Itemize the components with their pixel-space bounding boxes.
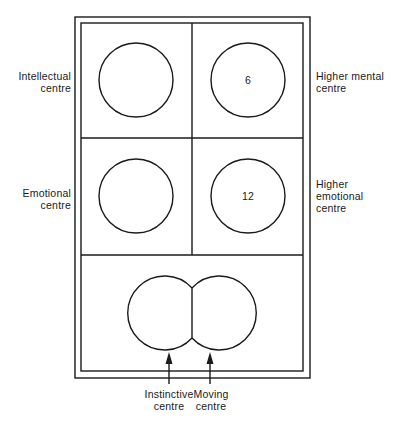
emotional-centre-circle [99, 159, 173, 233]
moving-arrow-icon [207, 352, 214, 364]
instinctive-centre-circle [128, 276, 192, 350]
intellectual-centre-label: Intellectual centre [0, 70, 71, 94]
moving-centre-label: Moving centre [181, 388, 241, 412]
instinctive-arrow-icon [166, 352, 173, 364]
emotional-centre-label: Emotional centre [0, 187, 71, 211]
higher-mental-centre-number: 6 [228, 74, 268, 86]
intellectual-centre-circle [99, 43, 173, 117]
higher-mental-centre-label: Higher mental centre [316, 70, 396, 94]
higher-emotional-centre-number: 12 [228, 190, 268, 202]
higher-emotional-centre-label: Higher emotional centre [316, 178, 396, 214]
moving-centre-circle [192, 276, 256, 350]
